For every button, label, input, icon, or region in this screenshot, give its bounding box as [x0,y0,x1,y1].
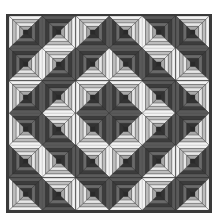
quilt-block [176,16,209,48]
light-log-strip [42,145,46,177]
light-log-strip [142,81,146,113]
quilt-block [76,16,109,48]
dark-log-strip [113,181,117,206]
light-log-strip [13,116,17,141]
dark-log-strip [46,19,50,44]
light-log-strip [79,149,105,152]
dark-log-strip [42,178,46,210]
dark-log-strip [35,19,39,44]
block-center-square [90,159,95,164]
dark-log-strip [9,48,42,51]
dark-log-strip [76,145,80,177]
dark-log-strip [42,16,75,19]
dark-log-strip [13,171,39,174]
light-log-strip [76,81,109,84]
light-log-strip [9,178,13,210]
dark-log-strip [102,19,106,44]
quilt-block [109,178,142,210]
light-log-strip [68,19,72,44]
dark-log-strip [205,145,209,177]
light-log-strip [76,16,80,48]
dark-log-strip [109,113,113,145]
dark-log-strip [109,113,142,116]
light-log-strip [46,171,72,174]
light-log-strip [46,52,50,77]
dark-log-strip [46,181,50,206]
light-log-strip [109,48,113,80]
dark-log-strip [179,171,205,174]
light-log-strip [168,52,172,77]
quilt-block [9,113,42,145]
dark-log-strip [113,181,139,184]
light-log-strip [109,207,142,210]
light-log-strip [46,116,72,119]
light-log-strip [13,84,17,109]
dark-log-strip [79,52,83,77]
light-log-strip [68,116,72,141]
light-log-strip [79,203,105,206]
dark-log-strip [179,106,205,109]
dark-log-strip [35,84,39,109]
dark-log-strip [102,116,106,141]
dark-log-strip [13,41,39,44]
dark-log-strip [42,16,46,48]
block-center-square [23,192,28,197]
light-log-strip [109,145,142,148]
block-center-square [90,127,95,132]
quilt-block [142,81,175,113]
light-log-strip [146,181,172,184]
quilt-block [42,178,75,210]
light-log-strip [146,116,172,119]
block-center-square [57,62,62,67]
light-log-strip [168,149,172,174]
block-center-square [57,30,62,35]
light-log-strip [135,19,139,44]
dark-log-strip [46,84,50,109]
block-center-square [157,127,162,132]
dark-log-strip [146,203,172,206]
dark-log-strip [109,178,113,210]
dark-log-strip [176,178,209,181]
dark-log-strip [202,149,206,174]
light-log-strip [68,84,72,109]
dark-log-strip [179,52,205,55]
block-center-square [157,30,162,35]
light-log-strip [13,203,39,206]
quilt-block [109,81,142,113]
dark-log-strip [79,116,105,119]
light-log-strip [113,52,117,77]
quilt-block [9,178,42,210]
dark-log-strip [9,178,42,181]
dark-log-strip [79,171,105,174]
block-center-square [157,192,162,197]
light-log-strip [102,52,106,77]
dark-log-strip [35,181,39,206]
dark-log-strip [179,41,205,44]
block-center-square [57,127,62,132]
light-log-strip [113,138,139,141]
dark-log-strip [9,113,42,116]
light-log-strip [13,19,39,22]
dark-log-strip [113,52,139,55]
light-log-strip [35,149,39,174]
dark-log-strip [179,19,183,44]
quilt-block [76,81,109,113]
light-log-strip [9,81,42,84]
light-log-strip [135,84,139,109]
dark-log-strip [205,48,209,80]
light-log-strip [146,19,150,44]
dark-log-strip [113,84,117,109]
quilt-block [176,81,209,113]
light-log-strip [179,203,205,206]
quilt-block [142,48,175,80]
quilt-block [42,48,75,80]
light-log-strip [135,116,139,141]
block-center-square [123,62,128,67]
block-center-square [190,127,195,132]
light-log-strip [68,181,72,206]
quilt-block [76,113,109,145]
dark-log-strip [13,181,39,184]
block-center-square [157,62,162,67]
quilt-block [9,145,42,177]
light-log-strip [109,145,113,177]
